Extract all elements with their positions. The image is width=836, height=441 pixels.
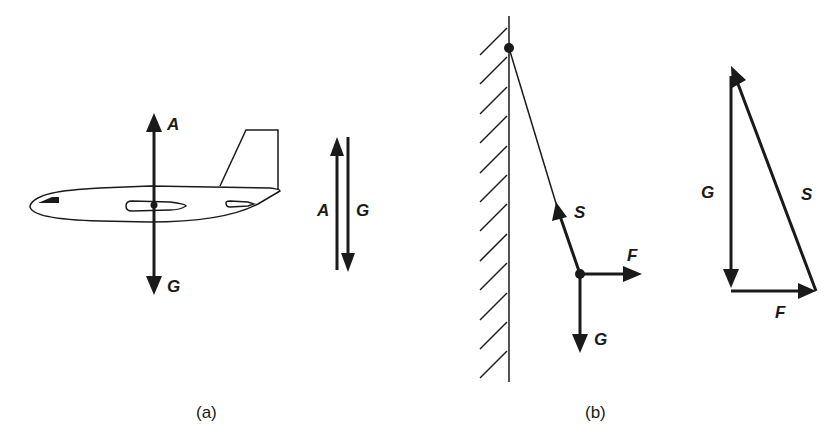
tension-label: S [574, 203, 586, 222]
caption-a: (a) [196, 403, 217, 422]
weight-b-label: G [594, 330, 607, 349]
triangle-s-label: S [801, 185, 813, 204]
airplane-tail-fin [220, 130, 278, 190]
vector-a-label: A [316, 201, 329, 220]
vector-g-label: G [356, 201, 369, 220]
lift-label: A [166, 115, 179, 134]
tension-arrow-head-icon [552, 202, 567, 221]
airplane-cockpit [38, 197, 59, 203]
bob-point [575, 269, 585, 279]
panel-a: A G A G (a) [30, 113, 369, 422]
panel-b: S F G G S F (b) [480, 16, 816, 422]
tension-arrow-line [560, 216, 580, 274]
horizontal-force-head-icon [623, 266, 642, 282]
airplane-tailplane [226, 201, 254, 207]
caption-b: (b) [585, 403, 606, 422]
vector-a-head-icon [330, 137, 344, 156]
wall-hatching [480, 28, 507, 378]
weight-label: G [167, 277, 180, 296]
lift-arrow-head-icon [146, 113, 162, 132]
weight-b-head-icon [572, 334, 588, 353]
triangle-f-label: F [775, 303, 786, 322]
weight-arrow-head-icon [146, 276, 162, 295]
center-of-mass-dot [151, 202, 158, 209]
force-diagram: A G A G (a) [0, 0, 836, 441]
vector-g-head-icon [341, 253, 355, 272]
string [509, 48, 558, 210]
horizontal-force-label: F [627, 246, 638, 265]
triangle-g-label: G [701, 183, 714, 202]
triangle-g-head-icon [723, 269, 739, 288]
